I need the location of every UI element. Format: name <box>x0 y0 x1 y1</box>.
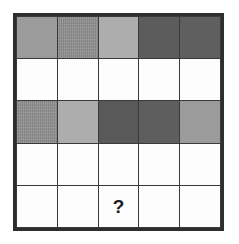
grid-cell-r3c1[interactable] <box>17 101 58 143</box>
grid-cell-fill <box>99 101 139 142</box>
grid-cell-fill <box>99 17 139 58</box>
puzzle-figure: ? <box>0 0 239 244</box>
grid-cell-r4c1[interactable] <box>17 143 58 185</box>
grid-cell-r4c3[interactable] <box>98 143 139 185</box>
grid-cell-fill <box>58 17 98 58</box>
grid-cell-r5c3[interactable]: ? <box>98 185 139 227</box>
grid-cell-fill <box>180 59 220 100</box>
grid-cell-fill <box>180 186 220 227</box>
grid-cell-fill <box>99 144 139 185</box>
grid-cell-fill <box>58 101 98 142</box>
grid-cell-fill <box>17 59 57 100</box>
grid-cell-r4c5[interactable] <box>180 143 221 185</box>
grid-cell-r4c2[interactable] <box>57 143 98 185</box>
grid-container: ? <box>13 13 224 231</box>
grid-cell-r1c2[interactable] <box>57 17 98 59</box>
grid-cell-fill <box>139 144 179 185</box>
grid-cell-fill <box>17 17 57 58</box>
grid-cell-r1c1[interactable] <box>17 17 58 59</box>
grid-cell-r1c5[interactable] <box>180 17 221 59</box>
grid-row <box>17 59 221 101</box>
grid-body: ? <box>17 17 221 228</box>
grid-cell-r3c5[interactable] <box>180 101 221 143</box>
grid-row: ? <box>17 185 221 227</box>
grid-cell-r2c3[interactable] <box>98 59 139 101</box>
grid-cell-fill <box>180 17 220 58</box>
grid-cell-fill <box>139 17 179 58</box>
grid-cell-r5c2[interactable] <box>57 185 98 227</box>
grid-row <box>17 143 221 185</box>
grid-cell-r2c2[interactable] <box>57 59 98 101</box>
grid-cell-fill <box>17 144 57 185</box>
grid-row <box>17 101 221 143</box>
grid-cell-r1c4[interactable] <box>139 17 180 59</box>
shaded-grid: ? <box>16 16 221 228</box>
grid-cell-r5c4[interactable] <box>139 185 180 227</box>
grid-cell-fill <box>139 101 179 142</box>
grid-cell-r5c5[interactable] <box>180 185 221 227</box>
question-mark-label: ? <box>113 197 125 216</box>
grid-cell-fill <box>17 186 57 227</box>
grid-cell-fill <box>180 144 220 185</box>
grid-cell-r2c4[interactable] <box>139 59 180 101</box>
grid-cell-fill <box>58 59 98 100</box>
grid-cell-fill <box>99 59 139 100</box>
grid-cell-fill <box>139 186 179 227</box>
grid-cell-fill <box>139 59 179 100</box>
grid-cell-r3c2[interactable] <box>57 101 98 143</box>
grid-cell-r5c1[interactable] <box>17 185 58 227</box>
grid-cell-fill <box>17 101 57 142</box>
grid-cell-r2c5[interactable] <box>180 59 221 101</box>
grid-row <box>17 17 221 59</box>
grid-cell-fill: ? <box>99 186 139 227</box>
grid-cell-fill <box>180 101 220 142</box>
grid-cell-fill <box>58 186 98 227</box>
grid-cell-r2c1[interactable] <box>17 59 58 101</box>
grid-cell-r3c4[interactable] <box>139 101 180 143</box>
grid-cell-fill <box>58 144 98 185</box>
grid-cell-r1c3[interactable] <box>98 17 139 59</box>
grid-cell-r4c4[interactable] <box>139 143 180 185</box>
grid-cell-r3c3[interactable] <box>98 101 139 143</box>
